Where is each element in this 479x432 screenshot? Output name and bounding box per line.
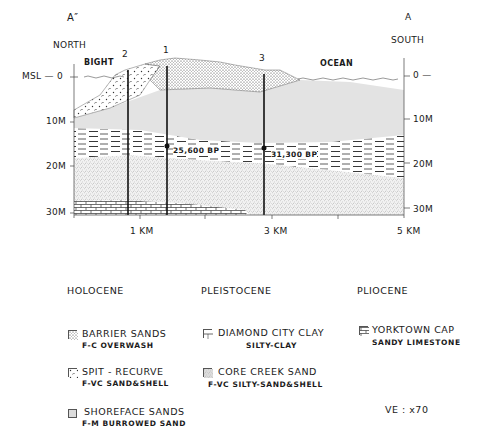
msl-label: MSL — 0: [22, 71, 63, 81]
legend-core-creek-sand-desc: F-VC SILTY-SAND&SHELL: [208, 380, 323, 389]
section-label-left: A″: [67, 12, 78, 23]
vertical-exaggeration-label: VE : x70: [385, 404, 428, 415]
legend-shoreface-sands-desc: F-M BURROWED SAND: [82, 419, 186, 428]
legend-barrier-sands: BARRIER SANDS: [82, 328, 166, 339]
depth-left-10: 10M: [46, 116, 66, 126]
right-zero-label: 0 —: [413, 70, 432, 80]
ocean-label: OCEAN: [320, 59, 353, 68]
legend-spit-recurve: SPIT - RECURVE: [82, 366, 164, 377]
direction-south: SOUTH: [391, 35, 424, 45]
layer-barrier-sands: [145, 58, 300, 92]
legend-shoreface-sands: SHOREFACE SANDS: [84, 406, 185, 417]
depth-right-30: 30M: [413, 204, 433, 214]
direction-north: NORTH: [53, 40, 86, 50]
depth-left-30: 30M: [46, 207, 66, 217]
swatch-spit-recurve: [68, 368, 77, 377]
legend-barrier-sands-desc: F-C OVERWASH: [82, 341, 154, 350]
swatch-yorktown-cap: [359, 326, 368, 335]
legend-core-creek-sand: CORE CREEK SAND: [218, 366, 317, 377]
distance-5km: 5 KM: [397, 226, 420, 236]
legend-epoch-holocene: HOLOCENE: [67, 285, 124, 296]
swatch-barrier-sands: [68, 330, 77, 339]
legend-diamond-city-clay-desc: SILTY-CLAY: [246, 341, 297, 350]
core-label-1: 1: [163, 45, 169, 55]
swatch-shoreface-sands: [68, 409, 77, 418]
swatch-core-creek-sand: [203, 368, 212, 377]
date-point-1: [165, 144, 170, 149]
date-point-3: [262, 146, 267, 151]
ocean-water-line: [298, 78, 398, 80]
swatch-diamond-city-clay: [203, 329, 212, 338]
depth-right-10: 10M: [413, 114, 433, 124]
depth-right-20: 20M: [413, 159, 433, 169]
depth-left-20: 20M: [46, 161, 66, 171]
date-label-31300: 31,300 BP: [271, 150, 317, 159]
legend-diamond-city-clay: DIAMOND CITY CLAY: [218, 327, 324, 338]
legend-epoch-pliocene: PLIOCENE: [357, 285, 408, 296]
legend-epoch-pleistocene: PLEISTOCENE: [201, 285, 271, 296]
core-label-2: 2: [122, 49, 128, 59]
distance-3km: 3 KM: [264, 226, 287, 236]
core-label-3: 3: [259, 53, 265, 63]
bight-label: BIGHT: [84, 58, 114, 67]
section-label-right: A: [405, 12, 411, 22]
legend-spit-recurve-desc: F-VC SAND&SHELL: [82, 379, 169, 388]
date-label-25600: 25,600 BP: [173, 146, 219, 155]
legend-yorktown-cap-desc: SANDY LIMESTONE: [372, 338, 461, 347]
legend-yorktown-cap: YORKTOWN CAP: [372, 324, 455, 335]
distance-1km: 1 KM: [130, 226, 153, 236]
